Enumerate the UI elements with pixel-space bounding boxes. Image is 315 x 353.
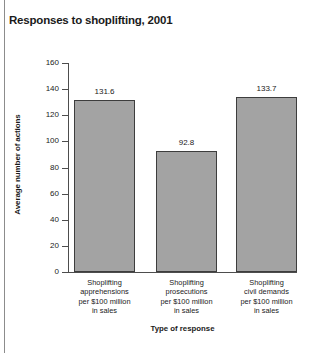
category-line: in sales — [148, 306, 225, 315]
category-line: per $100 million — [66, 297, 143, 306]
y-axis-tick — [62, 220, 68, 221]
clipped-footer-text — [30, 346, 310, 351]
bar-chart-plot: 160 140 120 100 80 60 40 20 0 Average nu… — [0, 0, 315, 353]
bar-value-label: 92.8 — [156, 139, 217, 147]
x-axis-category-label: Shoplifting civil demands per $100 milli… — [228, 278, 305, 316]
y-axis-tick-label: 80 — [50, 164, 59, 172]
x-axis-title: Type of response — [68, 324, 297, 333]
y-axis-tick — [62, 246, 68, 247]
y-axis-tick-label: 40 — [50, 216, 59, 224]
category-line: in sales — [66, 306, 143, 315]
category-line: per $100 million — [228, 297, 305, 306]
y-axis-tick — [62, 194, 68, 195]
y-axis-tick — [62, 89, 68, 90]
y-axis-tick-label: 140 — [46, 85, 59, 93]
category-line: prosecutions — [148, 287, 225, 296]
y-axis-tick-label: 60 — [50, 190, 59, 198]
y-axis-tick — [62, 115, 68, 116]
category-line: per $100 million — [148, 297, 225, 306]
category-line: Shoplifting — [228, 278, 305, 287]
y-axis-tick-label: 100 — [46, 137, 59, 145]
bar-shoplifting-civil-demands[interactable] — [236, 97, 297, 272]
y-axis-tick — [62, 63, 68, 64]
y-axis-tick — [62, 141, 68, 142]
y-axis-title: Average number of actions — [13, 100, 22, 230]
x-axis-category-label: Shoplifting apprehensions per $100 milli… — [66, 278, 143, 316]
x-axis-line — [68, 272, 297, 273]
y-axis-tick-label: 20 — [50, 242, 59, 250]
y-axis-tick-label: 160 — [46, 59, 59, 67]
y-axis-tick-label: 120 — [46, 111, 59, 119]
category-line: apprehensions — [66, 287, 143, 296]
bar-value-label: 133.7 — [236, 85, 297, 93]
bar-shoplifting-prosecutions[interactable] — [156, 151, 217, 272]
y-axis-line — [68, 63, 69, 273]
category-line: civil demands — [228, 287, 305, 296]
category-line: in sales — [228, 306, 305, 315]
category-line: Shoplifting — [66, 278, 143, 287]
y-axis-tick — [62, 272, 68, 273]
x-axis-category-label: Shoplifting prosecutions per $100 millio… — [148, 278, 225, 316]
bar-shoplifting-apprehensions[interactable] — [74, 100, 135, 272]
category-line: Shoplifting — [148, 278, 225, 287]
bar-value-label: 131.6 — [74, 88, 135, 96]
y-axis-tick-label: 0 — [55, 268, 59, 276]
y-axis-tick — [62, 168, 68, 169]
